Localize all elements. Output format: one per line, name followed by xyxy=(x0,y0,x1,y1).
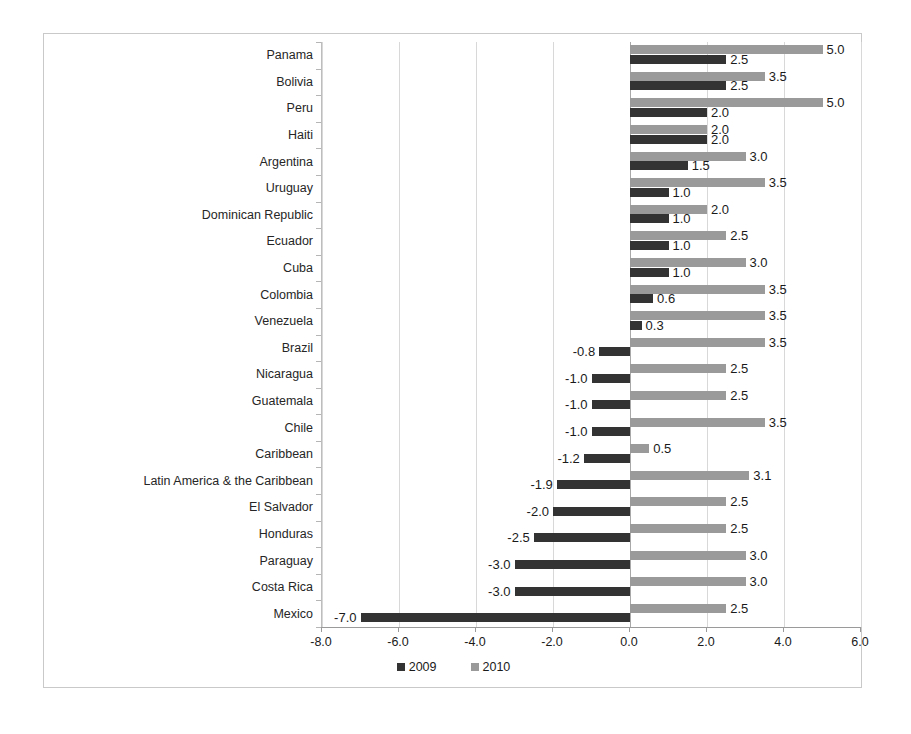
bar-2009 xyxy=(534,533,630,542)
bar-2009 xyxy=(553,507,630,516)
bar-2010 xyxy=(630,285,765,294)
category-label: Brazil xyxy=(43,342,313,354)
bar-value-label: 3.5 xyxy=(769,284,787,295)
bar-row: 3.01.5 xyxy=(322,148,860,175)
bar-value-label: 3.0 xyxy=(750,257,768,268)
bar-row: 3.50.3 xyxy=(322,308,860,335)
x-tick-mark xyxy=(860,627,861,632)
category-label: Mexico xyxy=(43,608,313,620)
legend-item-2010[interactable]: 2010 xyxy=(471,661,511,673)
category-tick xyxy=(316,122,321,123)
bar-row: 2.51.0 xyxy=(322,228,860,255)
bar-2009 xyxy=(630,108,707,117)
bar-row: 3.5-0.8 xyxy=(322,335,860,362)
category-tick xyxy=(316,414,321,415)
bar-value-label: 2.5 xyxy=(730,523,748,534)
legend-item-2009[interactable]: 2009 xyxy=(397,661,437,673)
bar-2010 xyxy=(630,604,726,613)
bar-value-label: 1.0 xyxy=(673,187,691,198)
category-label: El Salvador xyxy=(43,501,313,513)
legend-label: 2010 xyxy=(483,661,511,673)
bar-2009 xyxy=(557,480,630,489)
bar-value-label: 1.0 xyxy=(673,213,691,224)
bar-value-label: 0.5 xyxy=(653,443,671,454)
bar-value-label: -1.0 xyxy=(565,399,587,410)
legend-swatch-icon xyxy=(471,663,479,671)
bar-2009 xyxy=(584,454,630,463)
category-label: Paraguay xyxy=(43,555,313,567)
bar-2009 xyxy=(592,427,631,436)
bar-2010 xyxy=(630,364,726,373)
category-label: Chile xyxy=(43,422,313,434)
category-tick xyxy=(316,494,321,495)
bar-2010 xyxy=(630,497,726,506)
category-label: Latin America & the Caribbean xyxy=(43,475,313,487)
bar-2009 xyxy=(361,613,631,622)
bar-2010 xyxy=(630,444,649,453)
category-tick xyxy=(316,467,321,468)
bar-value-label: 2.0 xyxy=(711,134,729,145)
x-tick-mark xyxy=(321,627,322,632)
bar-2009 xyxy=(630,55,726,64)
bar-value-label: -3.0 xyxy=(488,586,510,597)
category-tick xyxy=(316,255,321,256)
category-tick xyxy=(316,308,321,309)
bar-value-label: 3.5 xyxy=(769,417,787,428)
bar-2009 xyxy=(630,214,669,223)
bar-value-label: 0.6 xyxy=(657,293,675,304)
bar-2009 xyxy=(630,161,688,170)
category-label: Costa Rica xyxy=(43,581,313,593)
category-tick xyxy=(316,148,321,149)
category-tick xyxy=(316,281,321,282)
category-tick xyxy=(316,95,321,96)
bar-value-label: 2.5 xyxy=(730,54,748,65)
category-label: Peru xyxy=(43,102,313,114)
bar-2010 xyxy=(630,205,707,214)
x-tick-mark xyxy=(398,627,399,632)
bar-value-label: 2.5 xyxy=(730,80,748,91)
category-label: Panama xyxy=(43,49,313,61)
category-label: Nicaragua xyxy=(43,368,313,380)
category-label: Haiti xyxy=(43,129,313,141)
bar-value-label: 2.5 xyxy=(730,363,748,374)
bar-value-label: 2.0 xyxy=(711,204,729,215)
chart-legend: 20092010 xyxy=(44,661,863,673)
bar-row: 2.02.0 xyxy=(322,122,860,149)
category-tick xyxy=(316,388,321,389)
category-tick xyxy=(316,547,321,548)
x-tick-mark xyxy=(783,627,784,632)
bar-value-label: 3.0 xyxy=(750,151,768,162)
legend-label: 2009 xyxy=(409,661,437,673)
category-tick xyxy=(316,335,321,336)
category-label: Guatemala xyxy=(43,395,313,407)
category-label: Colombia xyxy=(43,289,313,301)
bar-value-label: -3.0 xyxy=(488,559,510,570)
x-tick-label: -4.0 xyxy=(445,635,505,649)
bar-value-label: 2.5 xyxy=(730,390,748,401)
category-tick xyxy=(316,361,321,362)
bar-2009 xyxy=(630,268,669,277)
bar-value-label: 5.0 xyxy=(827,44,845,55)
bar-row: 3.01.0 xyxy=(322,255,860,282)
x-tick-label: -2.0 xyxy=(522,635,582,649)
x-tick-label: 4.0 xyxy=(753,635,813,649)
bar-row: 2.5-1.0 xyxy=(322,388,860,415)
bar-2009 xyxy=(630,241,669,250)
gridline xyxy=(861,42,862,627)
bar-2010 xyxy=(630,178,765,187)
bar-2009 xyxy=(630,321,642,330)
bar-2010 xyxy=(630,524,726,533)
bar-value-label: -1.0 xyxy=(565,426,587,437)
bar-row: 3.52.5 xyxy=(322,69,860,96)
bar-value-label: 2.5 xyxy=(730,496,748,507)
x-tick-label: 0.0 xyxy=(599,635,659,649)
x-tick-label: 6.0 xyxy=(830,635,890,649)
bar-value-label: 1.5 xyxy=(692,160,710,171)
bar-2009 xyxy=(630,188,669,197)
x-tick-label: -6.0 xyxy=(368,635,428,649)
bar-2009 xyxy=(599,347,630,356)
x-tick-mark xyxy=(475,627,476,632)
bar-2009 xyxy=(630,135,707,144)
x-tick-mark xyxy=(629,627,630,632)
bar-2009 xyxy=(515,560,631,569)
